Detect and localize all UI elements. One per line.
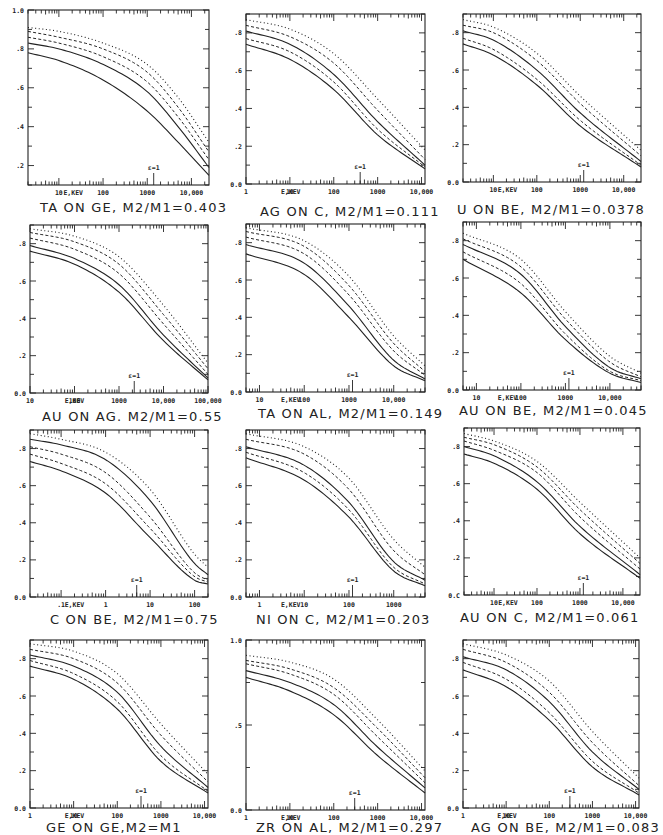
y-tick-label: .6 bbox=[16, 84, 24, 92]
curve-dashed-2 bbox=[28, 31, 209, 152]
curve-dotted bbox=[28, 28, 209, 143]
x-tick-label: 10,000 bbox=[624, 812, 648, 820]
curve-solid-2 bbox=[30, 246, 208, 379]
y-tick-label: .4 bbox=[451, 312, 459, 320]
y-tick-label: .8 bbox=[451, 237, 459, 245]
plot-area: 0.0.2.4.6.810100100010,000E,KEVε=1 bbox=[463, 222, 641, 390]
x-tick-label: 10 bbox=[472, 394, 480, 402]
x-axis-label: E,KEV bbox=[65, 601, 85, 609]
panel-au-on-c: 0.C.2.4.6.810100100010,000E,KEVε=1 AU ON… bbox=[464, 428, 640, 595]
epsilon-label: ε=1 bbox=[577, 574, 589, 582]
panel-au-on-be: 0.0.2.4.6.810100100010,000E,KEVε=1 AU ON… bbox=[463, 222, 641, 390]
x-axis-ticks bbox=[463, 14, 637, 182]
curve-dashed-1 bbox=[30, 454, 208, 582]
epsilon-label: ε=1 bbox=[578, 161, 590, 169]
plot-area: 0.0.2.4.6.81101001000E,KEVε=1 bbox=[246, 430, 425, 597]
x-tick-label: 1000 bbox=[572, 186, 588, 194]
x-tick-label: 10,000 bbox=[382, 396, 406, 404]
y-tick-label: .2 bbox=[234, 351, 242, 359]
curve-solid-2 bbox=[246, 245, 425, 379]
curve-solid-2 bbox=[30, 439, 208, 574]
panel-caption: TA ON GE, M2/M1=0.403 bbox=[40, 200, 227, 215]
x-axis-ticks bbox=[246, 14, 422, 184]
x-tick-label: 1000 bbox=[139, 189, 155, 197]
curve-solid-1 bbox=[463, 259, 641, 382]
panel-ta-on-ge: .2.4.6.81.010100100010,000E,KEVε=1 TA ON… bbox=[28, 10, 209, 185]
plot-area: 0.0.2.4.6.8110100100010,000E,KEVε=1 bbox=[463, 640, 639, 808]
x-tick-label: 10,000 bbox=[612, 186, 636, 194]
x-tick-label: 1 bbox=[244, 188, 248, 196]
y-tick-label: 0.0 bbox=[230, 389, 242, 397]
y-axis-ticks bbox=[30, 225, 208, 393]
y-axis-ticks bbox=[246, 640, 425, 810]
y-tick-label: .4 bbox=[16, 123, 24, 131]
y-tick-label: .8 bbox=[234, 239, 242, 247]
x-tick-label: 1000 bbox=[558, 394, 574, 402]
y-axis-ticks bbox=[463, 640, 639, 808]
curve-dotted bbox=[463, 233, 641, 373]
curve-dashed-2 bbox=[463, 239, 641, 377]
curve-dotted bbox=[30, 644, 208, 775]
x-tick-label: 1 bbox=[244, 814, 248, 822]
curve-solid-1 bbox=[463, 44, 641, 167]
y-tick-label: .4 bbox=[452, 517, 460, 525]
panel-caption: AG ON C, M2/M1=0.111 bbox=[260, 204, 440, 219]
curve-dotted bbox=[246, 20, 425, 150]
panel-caption: AU ON AG. M2/M1=0.55 bbox=[42, 409, 223, 424]
plot-frame bbox=[30, 640, 208, 808]
y-tick-label: 0.0 bbox=[447, 387, 459, 395]
curve-solid-2 bbox=[463, 657, 639, 790]
y-tick-label: .8 bbox=[18, 240, 26, 248]
curve-solid-2 bbox=[246, 31, 425, 165]
x-tick-label: 10,000 bbox=[180, 189, 204, 197]
curve-dashed-1 bbox=[464, 441, 640, 569]
x-axis-ticks bbox=[246, 640, 422, 810]
y-tick-label: .6 bbox=[451, 67, 459, 75]
plot-frame bbox=[463, 14, 641, 182]
y-tick-label: .8 bbox=[452, 443, 460, 451]
x-axis-ticks bbox=[464, 428, 636, 595]
epsilon-label: ε=1 bbox=[135, 787, 147, 795]
x-tick-label: 10,000 bbox=[410, 188, 434, 196]
x-tick-label: 100 bbox=[543, 812, 555, 820]
panel-ag-on-be: 0.0.2.4.6.8110100100010,000E,KEVε=1 AG O… bbox=[463, 640, 639, 808]
panel-caption: GE ON GE,M2=M1 bbox=[46, 820, 182, 835]
x-tick-label: 100 bbox=[531, 599, 543, 607]
x-tick-label: 10 bbox=[490, 599, 498, 607]
y-tick-label: .6 bbox=[451, 693, 459, 701]
panel-caption: AG ON BE, M2/M1=0.083 bbox=[471, 820, 660, 835]
y-tick-label: .2 bbox=[451, 141, 459, 149]
y-tick-label: .8 bbox=[451, 655, 459, 663]
x-tick-label: 10 bbox=[489, 186, 497, 194]
panel-caption: NI ON C, M2/M1=0.203 bbox=[256, 612, 431, 627]
curve-solid-2 bbox=[464, 447, 640, 575]
plot-frame bbox=[464, 428, 640, 595]
y-tick-label: .4 bbox=[234, 314, 242, 322]
epsilon-label: ε=1 bbox=[347, 576, 359, 584]
panel-caption: ZR ON AL, M2/M1=0.297 bbox=[256, 820, 443, 835]
x-tick-label: 10 bbox=[55, 189, 63, 197]
x-tick-label: 1000 bbox=[370, 188, 386, 196]
y-tick-label: 0.0 bbox=[230, 807, 242, 815]
y-tick-label: .8 bbox=[451, 29, 459, 37]
x-tick-label: 10,000 bbox=[193, 812, 217, 820]
y-tick-label: .4 bbox=[18, 315, 26, 323]
y-tick-label: .2 bbox=[18, 352, 26, 360]
plot-area: 0.0.2.4.6.8.1110100E,KEVε=1 bbox=[30, 430, 208, 597]
y-tick-label: .4 bbox=[234, 519, 242, 527]
panel-caption: AU ON BE, M2/M1=0.045 bbox=[459, 403, 648, 418]
epsilon-label: ε=1 bbox=[349, 789, 361, 797]
y-tick-label: .8 bbox=[18, 445, 26, 453]
y-tick-label: 0.0 bbox=[14, 594, 26, 602]
panel-zr-on-al: 0.0.51.0110100100010,000E,KEVε=1 ZR ON A… bbox=[246, 640, 425, 810]
curve-solid-1 bbox=[464, 454, 640, 578]
curve-solid-2 bbox=[28, 43, 209, 167]
y-tick-label: .2 bbox=[451, 767, 459, 775]
y-axis-ticks bbox=[246, 430, 425, 597]
x-axis-label: E,KEV bbox=[498, 394, 518, 402]
y-tick-label: .6 bbox=[18, 278, 26, 286]
y-tick-label: .8 bbox=[234, 445, 242, 453]
curve-dashed-2 bbox=[246, 660, 425, 777]
y-tick-label: .2 bbox=[451, 349, 459, 357]
x-tick-label: 100 bbox=[343, 601, 355, 609]
